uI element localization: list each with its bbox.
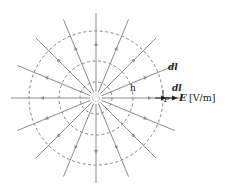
e-field-symbol: E xyxy=(179,93,187,103)
e-arrow-icon xyxy=(172,96,178,101)
e-field-units: [V/m] xyxy=(189,93,215,103)
field-line xyxy=(63,19,93,92)
field-line xyxy=(98,19,128,92)
field-line xyxy=(36,102,92,158)
arrow-icon xyxy=(148,96,152,100)
field-line xyxy=(17,65,90,95)
field-line xyxy=(36,38,92,94)
field-line xyxy=(17,100,90,130)
field-line xyxy=(102,100,175,130)
arrow-icon xyxy=(94,150,98,154)
arrow-icon xyxy=(41,96,45,100)
p-label: P xyxy=(164,96,169,104)
field-line xyxy=(63,104,93,177)
field-diagram: dl h dl P E [V/m] xyxy=(0,0,230,191)
field-line xyxy=(100,102,156,158)
field-line xyxy=(100,38,156,94)
field-line xyxy=(98,104,128,177)
h-label: h xyxy=(130,84,136,93)
arrow-icon xyxy=(94,43,98,47)
point-charge xyxy=(93,95,100,102)
dl-label-upper: dl xyxy=(168,63,178,72)
field-line xyxy=(102,65,175,95)
